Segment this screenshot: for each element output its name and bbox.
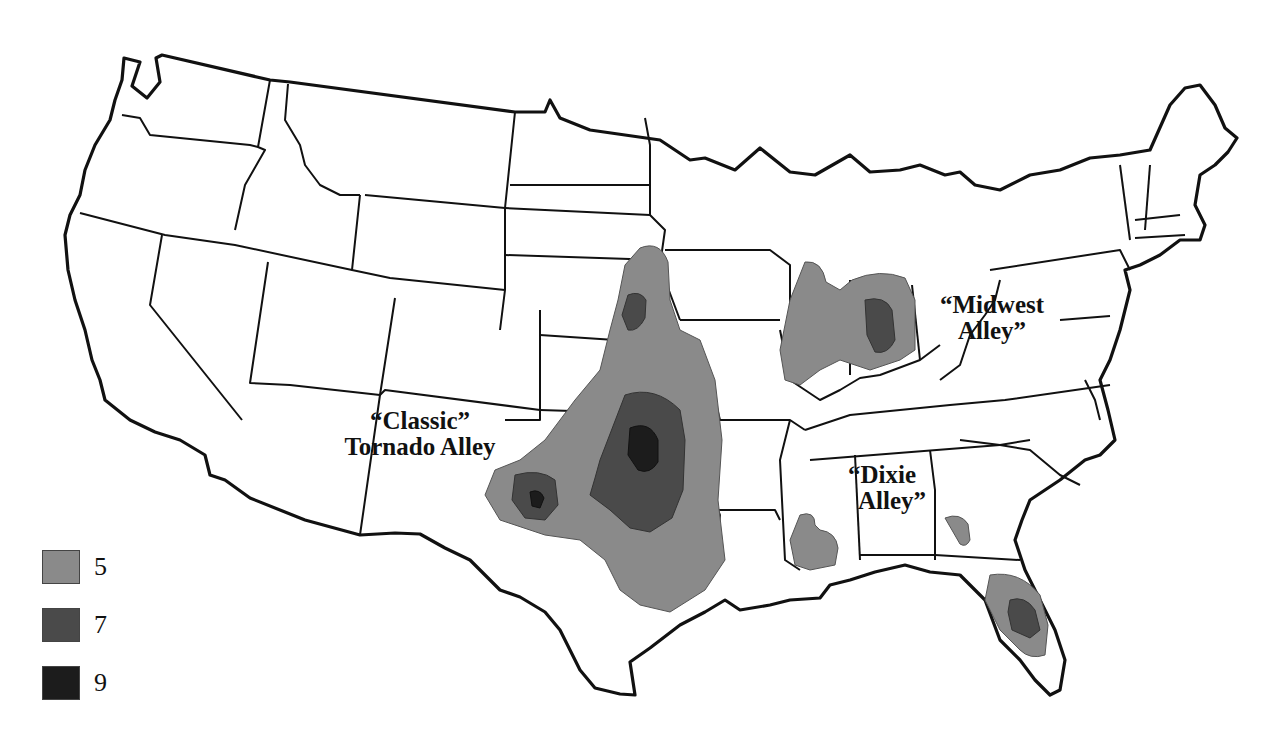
label-midwest-line1: “Midwest <box>932 292 1052 318</box>
label-midwest-line2: Alley” <box>932 318 1052 344</box>
legend-item-9: 9 <box>42 664 107 702</box>
label-midwest-alley: “Midwest Alley” <box>932 292 1052 344</box>
label-dixie-line1: “Dixie <box>848 462 948 488</box>
label-dixie-alley: “Dixie Alley” <box>848 462 948 514</box>
legend: 5 7 9 <box>42 548 107 722</box>
legend-value-7: 7 <box>94 610 107 640</box>
label-classic-tornado-alley: “Classic” Tornado Alley <box>330 408 510 460</box>
legend-value-5: 5 <box>94 552 107 582</box>
legend-swatch-5 <box>42 550 80 584</box>
legend-item-7: 7 <box>42 606 107 644</box>
legend-swatch-9 <box>42 666 80 700</box>
label-classic-line2: Tornado Alley <box>330 434 510 460</box>
us-tornado-map <box>0 0 1286 731</box>
legend-swatch-7 <box>42 608 80 642</box>
legend-value-9: 9 <box>94 668 107 698</box>
label-dixie-line2: Alley” <box>848 488 948 514</box>
label-classic-line1: “Classic” <box>330 408 510 434</box>
legend-item-5: 5 <box>42 548 107 586</box>
